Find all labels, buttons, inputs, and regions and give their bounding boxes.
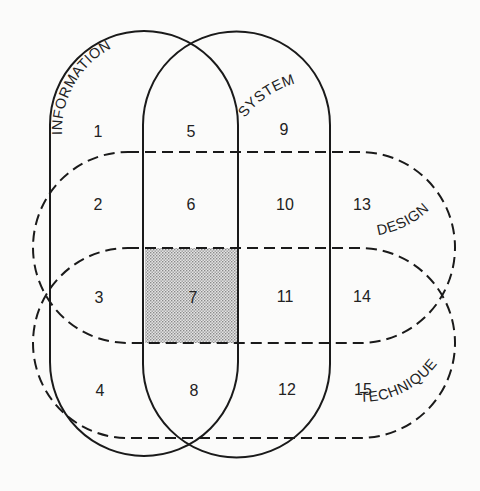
set-system-outline xyxy=(143,32,330,458)
venn-diagram: INFORMATION SYSTEM DESIGN TECHNIQUE 1 2 … xyxy=(0,0,480,491)
region-11: 11 xyxy=(277,288,294,305)
region-6: 6 xyxy=(187,196,196,213)
region-4: 4 xyxy=(96,382,105,399)
region-10: 10 xyxy=(276,196,294,213)
region-5: 5 xyxy=(187,123,196,140)
region-12: 12 xyxy=(278,381,296,398)
region-14: 14 xyxy=(353,288,371,305)
set-design-outline xyxy=(33,152,455,343)
region-9: 9 xyxy=(280,121,289,138)
region-1: 1 xyxy=(94,123,103,140)
label-design: DESIGN xyxy=(375,200,431,239)
region-2: 2 xyxy=(94,196,103,213)
region-3: 3 xyxy=(95,289,104,306)
label-system: SYSTEM xyxy=(235,71,297,120)
region-7: 7 xyxy=(189,289,198,306)
region-8: 8 xyxy=(190,382,199,399)
region-15: 15 xyxy=(354,381,372,398)
region-13: 13 xyxy=(353,196,371,213)
